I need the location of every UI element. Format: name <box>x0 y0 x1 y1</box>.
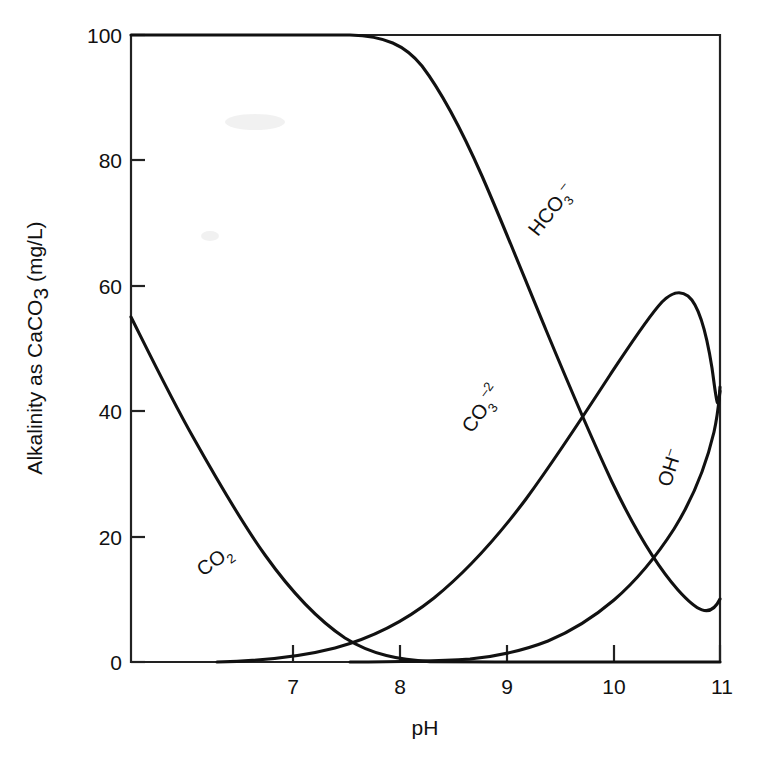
svg-text:OH–: OH– <box>651 445 686 489</box>
y-axis-title-sub: 3 <box>29 288 52 300</box>
x-axis-title: pH <box>412 716 439 739</box>
svg-text:CO2: CO2 <box>192 540 238 584</box>
y-axis-title-pre: Alkalinity as CaCO <box>23 300 46 475</box>
chart-figure: 100 80 60 40 20 0 7 8 9 10 11 pH <box>0 0 759 758</box>
paper-smudge <box>225 114 285 130</box>
x-tick-label-8: 8 <box>394 675 406 698</box>
curve-co2 <box>131 317 720 662</box>
svg-text:Alkalinity as CaCO3 (mg/L): Alkalinity as CaCO3 (mg/L) <box>23 221 52 474</box>
y-tick-label-40: 40 <box>99 400 122 423</box>
curve-label-co3: CO3–2 <box>454 379 509 439</box>
y-tick-label-60: 60 <box>99 275 122 298</box>
y-tick-label-20: 20 <box>99 526 122 549</box>
y-tick-label-80: 80 <box>99 149 122 172</box>
curve-oh <box>350 391 720 662</box>
x-tick-label-10: 10 <box>602 675 625 698</box>
y-axis-title-post: (mg/L) <box>23 221 46 288</box>
curve-label-co2: CO2 <box>192 540 238 584</box>
co3-label-sup: –2 <box>476 379 497 400</box>
x-tick-label-9: 9 <box>501 675 513 698</box>
curve-hco3 <box>131 35 720 611</box>
oh-label-pre: OH <box>653 454 683 489</box>
y-tick-label-100: 100 <box>87 24 122 47</box>
x-axis-tick-labels: 7 8 9 10 11 <box>287 675 733 698</box>
y-tick-label-0: 0 <box>110 651 122 674</box>
x-tick-label-7: 7 <box>287 675 299 698</box>
curve-co3 <box>217 293 720 662</box>
y-axis-title: Alkalinity as CaCO3 (mg/L) <box>23 221 52 474</box>
paper-smudge-2 <box>201 231 219 241</box>
svg-text:CO3–2: CO3–2 <box>454 379 509 439</box>
x-tick-label-11: 11 <box>711 675 733 698</box>
curve-label-hco3: HCO3– <box>522 178 582 243</box>
y-axis-ticks <box>131 35 145 662</box>
co2-label-pre: CO <box>192 545 229 580</box>
chart-canvas: 100 80 60 40 20 0 7 8 9 10 11 pH <box>0 0 759 758</box>
svg-text:HCO3–: HCO3– <box>522 178 582 243</box>
hco3-label-sup: – <box>554 178 571 194</box>
curve-label-oh: OH– <box>651 445 686 489</box>
y-axis-tick-labels: 100 80 60 40 20 0 <box>87 24 122 674</box>
